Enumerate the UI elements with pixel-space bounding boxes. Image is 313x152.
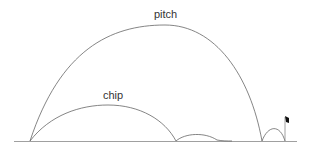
golf-shot-diagram: pitch chip: [0, 0, 313, 152]
chip-roll: [217, 140, 232, 141]
chip-label: chip: [103, 89, 123, 101]
chip-trajectory: [30, 105, 176, 141]
flag-icon: [285, 116, 289, 123]
pitch-label: pitch: [154, 8, 177, 20]
pitch-bounce: [262, 129, 285, 141]
chip-bounce-1: [176, 134, 217, 141]
pitch-trajectory: [30, 25, 262, 141]
